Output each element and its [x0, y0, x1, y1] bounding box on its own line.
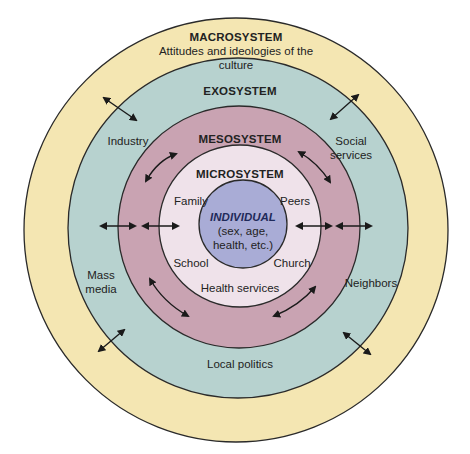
microsystem-item-peers: Peers — [270, 194, 320, 208]
exosystem-item-mass-media-2: media — [76, 282, 126, 296]
macrosystem-title: MACROSYSTEM — [186, 30, 286, 44]
macrosystem-subtitle-line2: culture — [186, 58, 286, 72]
mesosystem-title: MESOSYSTEM — [190, 132, 290, 146]
microsystem-item-family: Family — [166, 194, 216, 208]
exosystem-item-mass-media-1: Mass — [76, 268, 126, 282]
individual-line1: (sex, age, — [203, 224, 283, 238]
microsystem-item-church: Church — [264, 256, 320, 270]
macrosystem-subtitle-line1: Attitudes and ideologies of the — [136, 44, 336, 58]
individual-line2: health, etc.) — [203, 238, 283, 252]
microsystem-item-health-services: Health services — [190, 281, 290, 295]
microsystem-title: MICROSYSTEM — [190, 167, 290, 181]
exosystem-item-social-services-2: services — [316, 148, 386, 162]
exosystem-title: EXOSYSTEM — [190, 84, 290, 98]
individual-title: INDIVIDUAL — [203, 210, 283, 224]
exosystem-item-industry: Industry — [98, 134, 158, 148]
exosystem-item-neighbors: Neighbors — [336, 276, 406, 290]
exosystem-item-social-services-1: Social — [316, 134, 386, 148]
exosystem-item-local-politics: Local politics — [190, 357, 290, 371]
microsystem-item-school: School — [166, 256, 216, 270]
